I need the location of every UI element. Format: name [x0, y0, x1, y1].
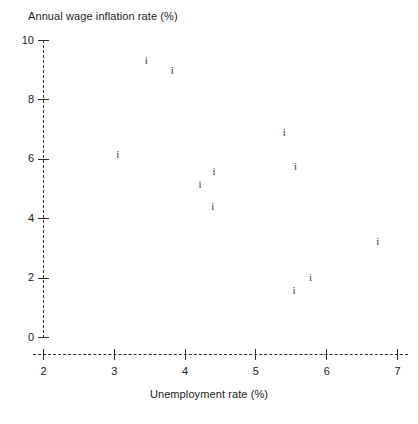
x-tick-mark [326, 349, 327, 360]
data-point: i [209, 164, 219, 178]
y-tick-label: 0 [12, 332, 34, 343]
data-point: i [373, 234, 383, 248]
plot-area: 0246810 234567 iiiiiiiiiii [0, 0, 418, 424]
data-point: i [195, 177, 205, 191]
data-point: i [208, 199, 218, 213]
data-point: i [279, 125, 289, 139]
data-point: i [291, 159, 301, 173]
data-point: i [141, 53, 151, 67]
x-tick-label: 4 [173, 365, 197, 377]
y-tick-mark [38, 337, 49, 338]
y-axis-line [43, 40, 44, 338]
y-tick-label-wrap: 2 [8, 272, 34, 284]
y-tick-label-wrap: 10 [8, 35, 34, 47]
x-tick-mark [185, 349, 186, 360]
data-point: i [305, 270, 315, 284]
y-tick-mark [38, 99, 49, 100]
x-tick-label: 5 [244, 365, 268, 377]
x-tick-mark [255, 349, 256, 360]
y-tick-mark [38, 40, 49, 41]
x-tick-label: 7 [386, 365, 410, 377]
data-point: i [167, 63, 177, 77]
y-tick-label: 10 [12, 35, 34, 46]
y-tick-label: 6 [12, 153, 34, 164]
y-tick-label-wrap: 8 [8, 94, 34, 106]
y-tick-label-wrap: 4 [8, 213, 34, 225]
x-axis-line [33, 354, 408, 355]
x-tick-mark [114, 349, 115, 360]
data-point: i [289, 283, 299, 297]
y-tick-label: 4 [12, 213, 34, 224]
data-point: i [113, 147, 123, 161]
y-tick-mark [38, 218, 49, 219]
x-tick-label: 3 [102, 365, 126, 377]
y-tick-label: 2 [12, 272, 34, 283]
y-tick-label: 8 [12, 94, 34, 105]
x-tick-label: 2 [32, 365, 56, 377]
y-tick-mark [38, 159, 49, 160]
y-tick-label-wrap: 6 [8, 153, 34, 165]
scatter-chart: Annual wage inflation rate (%) 0246810 2… [0, 0, 418, 424]
y-tick-mark [38, 278, 49, 279]
x-tick-mark [397, 349, 398, 360]
y-tick-label-wrap: 0 [8, 332, 34, 344]
x-axis-title: Unemployment rate (%) [0, 388, 418, 400]
x-tick-mark [43, 349, 44, 360]
x-tick-label: 6 [315, 365, 339, 377]
